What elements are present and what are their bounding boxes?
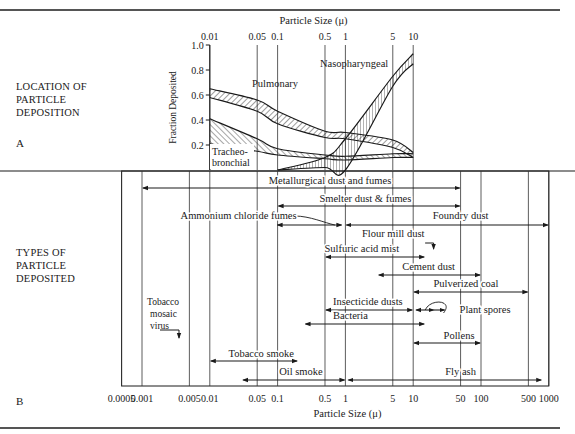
x-tick-label: 0.5 xyxy=(319,31,332,42)
x-axis-title: Particle Size (μ) xyxy=(313,408,382,420)
range-label: Insecticide dusts xyxy=(333,296,403,307)
range-label: Metallurgical dust and fumes xyxy=(269,175,392,186)
label-pulmonary: Pulmonary xyxy=(252,78,299,89)
range-metallurgical-dust-and-fumes: Metallurgical dust and fumes xyxy=(143,175,460,188)
range-label: Pulverized coal xyxy=(433,278,498,289)
particle-types-chart: 0.00050.0010.0050.010.050.10.51510501005… xyxy=(0,171,575,420)
y-tick-label: 0.6 xyxy=(191,90,204,101)
x-tick-label: 500 xyxy=(521,393,536,404)
range-label: mosaic xyxy=(150,309,177,319)
x-tick-label: 0.5 xyxy=(319,393,332,404)
range-pulverized-coal: Pulverized coal xyxy=(414,278,527,292)
label-tracheo: Tracheo- xyxy=(212,146,248,157)
x-tick-label: 0.01 xyxy=(201,393,219,404)
range-bacteria: Bacteria xyxy=(306,310,425,324)
y-tick-label: 0.4 xyxy=(191,115,204,126)
x-tick-label: 5 xyxy=(390,31,395,42)
range-sulfuric-acid-mist: Sulfuric acid mist xyxy=(324,243,424,257)
x-tick-label: 0.05 xyxy=(248,31,266,42)
range-label: Pollens xyxy=(444,330,475,341)
x-tick-label: 0.05 xyxy=(248,393,266,404)
deposition-chart: 0.010.050.10.51510Particle Size (μ)0.20.… xyxy=(168,15,418,175)
x-tick-label: 1000 xyxy=(539,393,559,404)
range-oil-smoke: Oil smoke xyxy=(243,366,344,380)
x-tick-label: 100 xyxy=(474,393,489,404)
x-tick-label: 1 xyxy=(343,31,348,42)
x-tick-label: 10 xyxy=(408,393,418,404)
x-tick-label: 0.001 xyxy=(131,393,154,404)
range-cement-dust: Cement dust xyxy=(379,261,480,275)
x-tick-label: 1 xyxy=(343,393,348,404)
range-label: Cement dust xyxy=(402,261,455,272)
y-tick-label: 0.8 xyxy=(191,65,204,76)
range-insecticide-dusts: Insecticide dusts xyxy=(326,296,412,310)
range-tobacco-smoke: Tobacco smoke xyxy=(211,348,297,361)
label-nasopharyngeal: Nasopharyngeal xyxy=(320,58,388,69)
x-tick-label: 0.005 xyxy=(178,393,201,404)
range-ammonium-chloride-fumes: Ammonium chloride fumes xyxy=(181,210,342,225)
range-label: Sulfuric acid mist xyxy=(324,243,399,254)
range-label: Flour mill dust xyxy=(362,228,425,239)
label-bronchial: bronchial xyxy=(212,157,250,168)
range-foundry-dust: Foundry dust xyxy=(346,210,547,225)
range-pollens: Pollens xyxy=(414,330,480,343)
range-label: Smelter dust & fumes xyxy=(319,193,411,204)
x-tick-label: 0.1 xyxy=(271,393,284,404)
x-tick-label: 10 xyxy=(408,31,418,42)
x-tick-label: 50 xyxy=(456,393,466,404)
x-tick-label: 0.1 xyxy=(271,31,284,42)
y-tick-label: 0.2 xyxy=(191,140,204,151)
y-tick-label: 1.0 xyxy=(191,40,204,51)
range-tobacco-mosaic-virus: Tobaccomosaicvirus xyxy=(147,297,179,338)
range-label: Foundry dust xyxy=(433,210,489,221)
range-label: Ammonium chloride fumes xyxy=(181,210,297,221)
range-plant-spores: Plant spores xyxy=(416,302,510,315)
range-fly-ash: Fly ash xyxy=(348,366,541,380)
x-tick-label: 5 xyxy=(390,393,395,404)
range-label: Tobacco smoke xyxy=(228,348,294,359)
range-label: Plant spores xyxy=(460,304,511,315)
y-axis-title: Fraction Deposited xyxy=(168,71,178,144)
x-axis-title: Particle Size (μ) xyxy=(279,15,348,27)
range-label: Bacteria xyxy=(333,310,368,321)
range-label: Oil smoke xyxy=(279,366,323,377)
range-label: Tobacco xyxy=(147,297,179,307)
range-label: Fly ash xyxy=(445,366,476,377)
chart-canvas: 0.010.050.10.51510Particle Size (μ)0.20.… xyxy=(0,0,575,434)
range-smelter-dust-fumes: Smelter dust & fumes xyxy=(279,193,460,206)
